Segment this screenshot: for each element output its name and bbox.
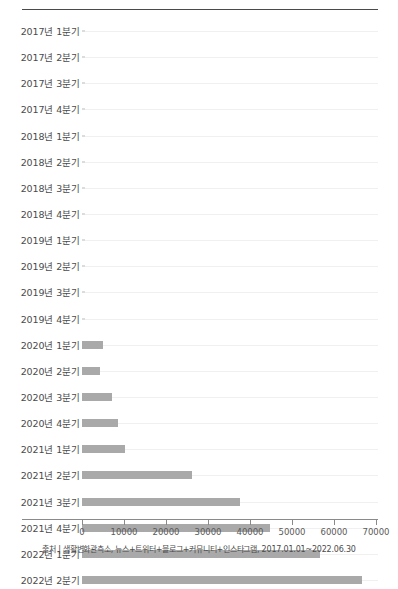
- chart-row: 2017년 2분기: [0, 44, 398, 70]
- category-label: 2018년 2분기: [21, 155, 80, 169]
- chart-row: 2021년 2분기: [0, 462, 398, 488]
- chart-row: 2019년 2분기: [0, 253, 398, 279]
- title-divider: [22, 9, 378, 10]
- gridline: [85, 188, 378, 189]
- category-label: 2018년 3분기: [21, 181, 80, 195]
- category-label: 2019년 4분기: [21, 312, 80, 326]
- chart-row: 2017년 1분기: [0, 18, 398, 44]
- y-axis-tick: [82, 187, 85, 188]
- x-axis-tick: [82, 519, 83, 525]
- x-axis-tick: [334, 519, 335, 525]
- chart-row: 2017년 3분기: [0, 70, 398, 96]
- category-label: 2017년 3분기: [21, 76, 80, 90]
- category-label: 2022년 2분기: [21, 573, 80, 587]
- gridline: [85, 109, 378, 110]
- bar: [82, 341, 103, 349]
- category-label: 2019년 2분기: [21, 259, 80, 273]
- category-label: 2021년 1분기: [21, 442, 80, 456]
- gridline: [85, 449, 378, 450]
- chart-row: 2018년 4분기: [0, 201, 398, 227]
- x-axis-tick: [250, 519, 251, 525]
- x-axis-tick-label: 50000: [278, 527, 305, 537]
- category-label: 2020년 1분기: [21, 338, 80, 352]
- gridline: [85, 345, 378, 346]
- bar: [82, 498, 240, 506]
- gridline: [85, 423, 378, 424]
- chart-row: 2020년 4분기: [0, 410, 398, 436]
- chart-row: 2018년 3분기: [0, 175, 398, 201]
- gridline: [85, 57, 378, 58]
- category-label: 2017년 4분기: [21, 102, 80, 116]
- category-label: 2017년 1분기: [21, 24, 80, 38]
- category-label: 2017년 2분기: [21, 50, 80, 64]
- chart-row: 2021년 1분기: [0, 436, 398, 462]
- gridline: [85, 292, 378, 293]
- gridline: [85, 240, 378, 241]
- gridline: [85, 83, 378, 84]
- y-axis-tick: [82, 240, 85, 241]
- y-axis-tick: [82, 57, 85, 58]
- bar: [82, 576, 362, 584]
- category-label: 2021년 4분기: [21, 521, 80, 535]
- bar: [82, 471, 192, 479]
- category-label: 2018년 1분기: [21, 129, 80, 143]
- x-axis-tick-label: 0: [79, 527, 84, 537]
- chart-row: 2018년 2분기: [0, 149, 398, 175]
- bar: [82, 445, 125, 453]
- y-axis-tick: [82, 109, 85, 110]
- gridline: [85, 31, 378, 32]
- gridline: [85, 162, 378, 163]
- x-axis-tick-label: 40000: [236, 527, 263, 537]
- chart-row: 2018년 1분기: [0, 123, 398, 149]
- category-label: 2021년 2분기: [21, 468, 80, 482]
- x-axis-tick: [166, 519, 167, 525]
- x-axis-tick-label: 10000: [110, 527, 137, 537]
- chart-row: 2022년 2분기: [0, 567, 398, 589]
- y-axis-tick: [82, 161, 85, 162]
- x-axis-tick-label: 70000: [362, 527, 389, 537]
- chart-row: 2020년 1분기: [0, 332, 398, 358]
- x-axis-tick-label: 60000: [320, 527, 347, 537]
- category-label: 2021년 3분기: [21, 495, 80, 509]
- gridline: [85, 397, 378, 398]
- chart-row: 2020년 2분기: [0, 358, 398, 384]
- chart-row: 2019년 4분기: [0, 306, 398, 332]
- source-note: 출처 | 생활변화관측소, 뉴스+트위터+블로그+커뮤니티+인스타그램, 201…: [0, 543, 398, 554]
- y-axis-tick: [82, 83, 85, 84]
- bar: [82, 419, 118, 427]
- chart-row: 2017년 4분기: [0, 96, 398, 122]
- x-axis-tick-label: 30000: [194, 527, 221, 537]
- bar: [82, 393, 112, 401]
- x-axis-tick: [292, 519, 293, 525]
- gridline: [85, 214, 378, 215]
- chart-row: 2021년 3분기: [0, 489, 398, 515]
- chart-row: 2020년 3분기: [0, 384, 398, 410]
- y-axis-tick: [82, 318, 85, 319]
- x-axis-tick: [376, 519, 377, 525]
- y-axis-tick: [82, 135, 85, 136]
- category-label: 2018년 4분기: [21, 207, 80, 221]
- gridline: [85, 136, 378, 137]
- y-axis-tick: [82, 292, 85, 293]
- x-axis-tick-label: 20000: [152, 527, 179, 537]
- category-label: 2020년 4분기: [21, 416, 80, 430]
- gridline: [85, 266, 378, 267]
- x-axis-line: [22, 519, 378, 520]
- chart-title: [22, 0, 222, 3]
- chart-row: 2019년 1분기: [0, 227, 398, 253]
- gridline: [85, 371, 378, 372]
- category-label: 2020년 3분기: [21, 390, 80, 404]
- y-axis-tick: [82, 266, 85, 267]
- y-axis-tick: [82, 214, 85, 215]
- category-label: 2020년 2분기: [21, 364, 80, 378]
- x-axis-tick: [208, 519, 209, 525]
- plot-area: 2017년 1분기2017년 2분기2017년 3분기2017년 4분기2018…: [0, 18, 398, 518]
- chart-row: 2019년 3분기: [0, 279, 398, 305]
- y-axis-tick: [82, 31, 85, 32]
- category-label: 2019년 1분기: [21, 233, 80, 247]
- category-label: 2019년 3분기: [21, 285, 80, 299]
- bar: [82, 367, 100, 375]
- x-axis-tick: [124, 519, 125, 525]
- gridline: [85, 319, 378, 320]
